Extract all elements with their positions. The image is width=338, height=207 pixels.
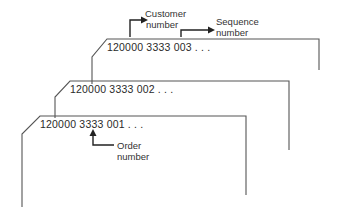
order-label-line2: number [117, 151, 149, 162]
order-number-label: Order number [117, 140, 149, 162]
customer-number-label: Customer number [145, 8, 186, 30]
record-3-code: 120000 3333 003 . . . [107, 41, 210, 53]
record-2-code: 120000 3333 002 . . . [70, 83, 173, 95]
customer-arrow [130, 20, 141, 37]
sequence-arrowhead-icon [208, 27, 215, 34]
sequence-number-label: Sequence number [216, 16, 259, 38]
sequence-label-line1: Sequence [216, 16, 259, 27]
customer-label-line2: number [145, 19, 186, 30]
sequence-label-line2: number [216, 27, 259, 38]
record-1-code: 120000 3333 001 . . . [40, 118, 143, 130]
customer-label-line1: Customer [145, 8, 186, 19]
order-label-line1: Order [117, 140, 149, 151]
sequence-arrow [181, 30, 208, 37]
order-arrowhead-icon [90, 129, 97, 136]
diagram-canvas [0, 0, 338, 207]
